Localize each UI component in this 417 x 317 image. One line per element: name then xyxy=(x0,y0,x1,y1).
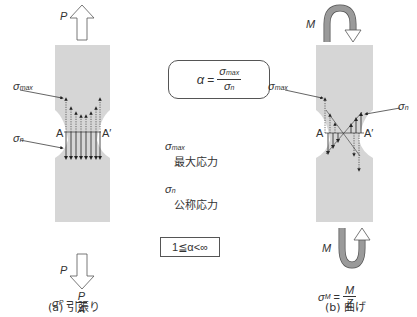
sigma-n-label-left: σn xyxy=(13,132,24,144)
moment-arrow-bottom xyxy=(342,228,370,265)
legend-sigma-max-text: 最大応力 xyxy=(174,153,218,169)
legend-sigma-n-text: 公称応力 xyxy=(174,196,218,212)
sigma-max-label-right: σmax xyxy=(268,80,288,92)
moment-arrow-top xyxy=(327,8,361,42)
sigma-max-label-left: σmax xyxy=(13,80,33,92)
section-a-prime-right: A′ xyxy=(364,127,373,139)
section-a-prime-left: A′ xyxy=(102,127,111,139)
legend-sigma-n: σn xyxy=(165,183,176,195)
load-label-top: P xyxy=(60,10,67,22)
tension-arrow-up xyxy=(70,5,94,40)
caption-tension: (a) 引張り xyxy=(48,298,100,314)
section-a-left: A xyxy=(56,127,63,139)
tension-specimen xyxy=(20,45,110,222)
section-a-right: A xyxy=(316,127,323,139)
alpha-range-box: 1≦α<∞ xyxy=(160,237,220,257)
caption-bending: (b) 曲げ xyxy=(325,298,366,314)
alpha-formula-box: α = σmaxσn xyxy=(168,60,270,99)
legend-sigma-max: σmax xyxy=(165,140,185,152)
sigma-n-label-right: σn xyxy=(398,100,409,112)
tension-arrow-down xyxy=(70,254,94,289)
moment-label-top: M xyxy=(306,18,315,30)
bending-specimen xyxy=(285,45,400,222)
moment-label-bottom: M xyxy=(322,242,331,254)
load-label-bottom: P xyxy=(60,264,67,276)
